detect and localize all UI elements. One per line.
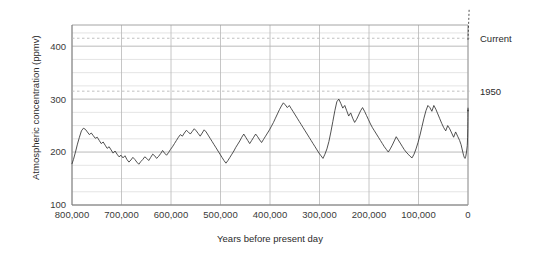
x-axis-tick-labels: 800,000700,000600,000500,000400,000300,0… [55, 209, 471, 220]
x-axis-title: Years before present day [217, 233, 323, 244]
gridlines-group [72, 25, 468, 205]
annotation-label-1950: 1950 [480, 86, 501, 97]
y-axis-tick-labels: 100200300400 [50, 41, 66, 211]
annotation-label-current: Current [480, 33, 512, 44]
annotation-labels-group: Current1950 [480, 33, 512, 97]
x-tick-label: 600,000 [154, 209, 188, 220]
y-axis-title: Atmospheric concentration (ppmv) [30, 35, 41, 180]
x-tick-label: 0 [465, 209, 470, 220]
x-tick-label: 700,000 [104, 209, 138, 220]
y-tick-label: 400 [50, 41, 66, 52]
x-tick-label: 500,000 [203, 209, 237, 220]
chart-canvas: 100200300400 800,000700,000600,000500,00… [0, 0, 534, 261]
x-tick-label: 400,000 [253, 209, 287, 220]
co2-ice-core-chart-figure: 100200300400 800,000700,000600,000500,00… [0, 0, 534, 261]
projection-dashed-line [468, 8, 469, 40]
x-tick-label: 200,000 [352, 209, 386, 220]
x-tick-label: 300,000 [302, 209, 336, 220]
x-tick-label: 800,000 [55, 209, 89, 220]
y-tick-label: 300 [50, 94, 66, 105]
x-tick-label: 100,000 [401, 209, 435, 220]
y-tick-label: 200 [50, 146, 66, 157]
